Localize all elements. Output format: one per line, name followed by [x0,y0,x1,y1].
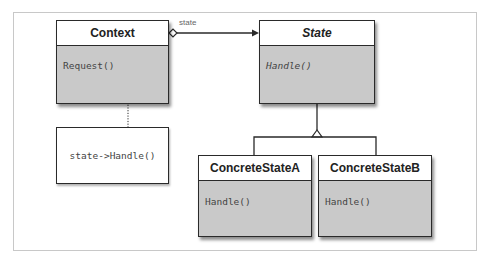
class-context: Context Request() [56,20,169,104]
class-state: State Handle() [259,20,375,104]
class-name: State [260,21,374,46]
inheritance-branch [254,137,376,155]
class-concrete-state-a: ConcreteStateA Handle() [198,155,312,237]
note-text: state->Handle() [57,150,168,161]
operation: Handle() [325,196,371,207]
inheritance-triangle-icon [312,130,322,137]
operation: Handle() [266,60,312,71]
class-concrete-state-b: ConcreteStateB Handle() [318,155,432,237]
operation: Handle() [205,196,251,207]
operation: Request() [63,60,114,71]
class-name: Context [57,21,168,46]
aggregation-diamond-icon [169,29,177,37]
aggregation-label: state [179,18,196,27]
arrowhead-icon [252,30,259,37]
class-name: ConcreteStateA [199,156,311,181]
class-name: ConcreteStateB [319,156,431,181]
note: state->Handle() [56,127,169,184]
